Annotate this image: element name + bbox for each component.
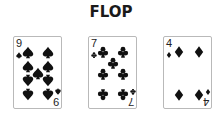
spade-pips [14,37,63,110]
club-pip-icon [108,58,118,69]
spade-pip-icon [43,47,54,59]
flop-title: FLOP [0,3,222,21]
diamond-pip-icon [175,46,183,58]
club-pips [89,37,138,110]
spade-pip-icon [23,61,34,73]
diamond-pip-icon [195,89,203,101]
card-9-of-spades[interactable]: 9 9 [13,36,62,109]
club-pip-icon [98,89,108,100]
spade-pip-icon [23,89,34,101]
spade-pip-icon [23,75,34,87]
card-4-of-diamonds[interactable]: 4 4 [163,36,212,109]
club-pip-icon [98,69,108,80]
diamond-corner-icon [167,52,171,58]
spade-pip-icon [23,47,34,59]
diamond-pips [164,37,213,110]
spade-corner-icon [55,89,61,95]
club-corner-icon [130,89,135,95]
club-pip-icon [118,89,128,100]
spade-pip-icon [43,75,54,87]
diamond-corner-icon [206,89,210,95]
spade-pip-icon [33,68,44,80]
diamond-pip-icon [195,46,203,58]
club-pip-icon [98,47,108,58]
spade-corner-icon [16,52,22,58]
diamond-pip-icon [175,89,183,101]
club-pip-icon [118,69,128,80]
spade-pip-icon [43,89,54,101]
club-corner-icon [91,52,96,58]
card-7-of-clubs[interactable]: 7 7 [88,36,137,109]
club-pip-icon [118,47,128,58]
spade-pip-icon [43,61,54,73]
